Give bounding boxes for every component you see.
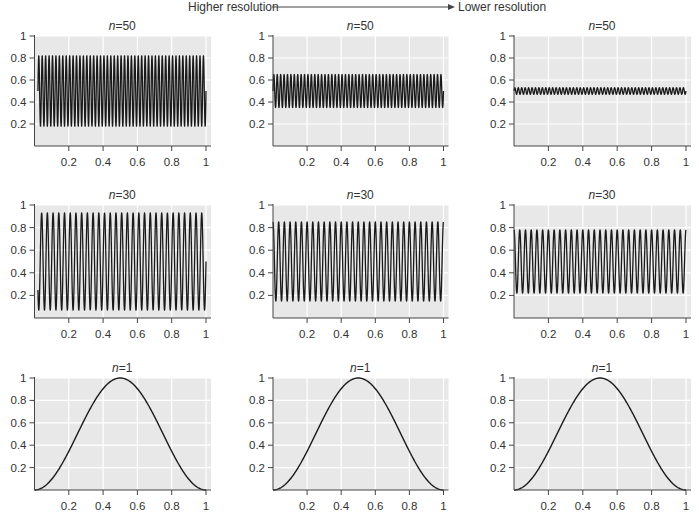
x-tick-label: 0.4 xyxy=(333,328,350,340)
x-tick-label: 0.4 xyxy=(95,500,112,512)
panel-title-value: =50 xyxy=(353,19,374,33)
x-tick-label: 1 xyxy=(683,328,689,340)
panel-title: n=30 xyxy=(588,188,615,202)
lower-resolution-label: Lower resolution xyxy=(458,0,546,14)
panel-title: n=50 xyxy=(109,19,136,33)
x-tick-label: 0.2 xyxy=(61,156,77,168)
panel-title: n=50 xyxy=(588,19,615,33)
x-tick-label: 0.2 xyxy=(540,500,556,512)
x-tick-label: 0.6 xyxy=(367,328,383,340)
x-tick-label: 1 xyxy=(683,156,689,168)
higher-resolution-label: Higher resolution xyxy=(188,0,279,14)
y-tick-label: 0.2 xyxy=(11,289,27,301)
y-tick-label: 0.6 xyxy=(249,74,265,86)
y-tick-label: 0.2 xyxy=(11,118,27,130)
x-tick-label: 0.2 xyxy=(540,156,556,168)
x-tick-label: 0.2 xyxy=(299,328,315,340)
chart-panel-1-3: 0.20.40.60.810.20.40.60.81n=50 xyxy=(490,19,691,168)
chart-panel-3-3: 0.20.40.60.810.20.40.60.81n=1 xyxy=(490,361,691,512)
y-tick-label: 0.6 xyxy=(490,417,506,429)
x-tick-label: 0.8 xyxy=(644,328,660,340)
y-tick-label: 0.8 xyxy=(490,394,506,406)
x-tick-label: 1 xyxy=(440,500,446,512)
y-tick-label: 1 xyxy=(259,30,265,42)
y-tick-label: 1 xyxy=(20,30,26,42)
y-tick-label: 0.8 xyxy=(11,394,27,406)
y-tick-label: 0.8 xyxy=(11,222,27,234)
panel-title: n=1 xyxy=(350,361,371,375)
x-tick-label: 1 xyxy=(683,500,689,512)
panel-title: n=50 xyxy=(347,19,374,33)
x-tick-label: 0.6 xyxy=(129,500,145,512)
x-tick-label: 0.8 xyxy=(644,156,660,168)
series-line xyxy=(514,88,686,95)
x-tick-label: 0.6 xyxy=(129,328,145,340)
x-tick-label: 0.2 xyxy=(61,500,77,512)
x-tick-label: 0.8 xyxy=(164,500,180,512)
chart-panel-3-2: 0.20.40.60.810.20.40.60.81n=1 xyxy=(249,361,449,512)
y-tick-label: 0.4 xyxy=(11,96,28,108)
panel-title-value: =50 xyxy=(595,19,616,33)
y-tick-label: 0.4 xyxy=(249,439,266,451)
x-tick-label: 1 xyxy=(203,328,209,340)
plot-background xyxy=(514,36,691,146)
y-tick-label: 0.8 xyxy=(249,52,265,64)
series-line xyxy=(273,75,444,108)
x-tick-label: 0.8 xyxy=(164,156,180,168)
panel-title-value: =1 xyxy=(599,361,613,375)
x-tick-label: 0.8 xyxy=(164,328,180,340)
x-tick-label: 0.4 xyxy=(333,156,350,168)
y-tick-label: 0.8 xyxy=(249,394,265,406)
panel-title-value: =30 xyxy=(595,188,616,202)
panel-title-value: =50 xyxy=(115,19,136,33)
chart-panel-1-1: 0.20.40.60.810.20.40.60.81n=50 xyxy=(11,19,212,168)
x-tick-label: 0.2 xyxy=(540,328,556,340)
y-tick-label: 0.4 xyxy=(11,439,28,451)
x-tick-label: 0.8 xyxy=(401,500,417,512)
chart-panel-1-2: 0.20.40.60.810.20.40.60.81n=50 xyxy=(249,19,449,168)
x-tick-label: 0.8 xyxy=(644,500,660,512)
panel-title: n=1 xyxy=(112,361,133,375)
y-tick-label: 1 xyxy=(259,372,265,384)
y-tick-label: 1 xyxy=(259,199,265,211)
y-tick-label: 1 xyxy=(500,372,506,384)
y-tick-label: 0.2 xyxy=(249,289,265,301)
x-tick-label: 0.6 xyxy=(129,156,145,168)
x-tick-label: 0.4 xyxy=(95,328,112,340)
x-tick-label: 1 xyxy=(203,500,209,512)
y-tick-label: 0.6 xyxy=(11,417,27,429)
chart-panel-2-3: 0.20.40.60.810.20.40.60.81n=30 xyxy=(490,188,691,340)
y-tick-label: 0.4 xyxy=(490,96,507,108)
y-tick-label: 0.6 xyxy=(490,74,506,86)
y-tick-label: 0.6 xyxy=(249,417,265,429)
x-tick-label: 0.6 xyxy=(609,156,625,168)
x-tick-label: 0.4 xyxy=(575,500,592,512)
y-tick-label: 0.8 xyxy=(11,52,27,64)
chart-panel-2-1: 0.20.40.60.810.20.40.60.81n=30 xyxy=(11,188,212,340)
x-tick-label: 0.2 xyxy=(299,500,315,512)
panel-title-value: =1 xyxy=(119,361,133,375)
resolution-header: Higher resolution Lower resolution xyxy=(188,0,546,14)
x-tick-label: 0.8 xyxy=(401,156,417,168)
y-tick-label: 0.2 xyxy=(11,462,27,474)
plot-background xyxy=(35,36,212,146)
y-tick-label: 0.8 xyxy=(490,52,506,64)
figure: Higher resolution Lower resolution 0.20.… xyxy=(0,0,699,524)
y-tick-label: 1 xyxy=(500,199,506,211)
y-tick-label: 0.4 xyxy=(249,96,266,108)
x-tick-label: 1 xyxy=(203,156,209,168)
panel-title: n=1 xyxy=(592,361,613,375)
x-tick-label: 0.4 xyxy=(333,500,350,512)
y-tick-label: 0.8 xyxy=(249,222,265,234)
panel-title: n=30 xyxy=(109,188,136,202)
y-tick-label: 0.2 xyxy=(249,462,265,474)
y-tick-label: 0.4 xyxy=(249,267,266,279)
panel-title-value: =1 xyxy=(357,361,371,375)
y-tick-label: 0.4 xyxy=(490,439,507,451)
chart-panel-3-1: 0.20.40.60.810.20.40.60.81n=1 xyxy=(11,361,212,512)
panel-grid: 0.20.40.60.810.20.40.60.81n=500.20.40.60… xyxy=(11,19,692,512)
y-tick-label: 0.8 xyxy=(490,222,506,234)
x-tick-label: 0.6 xyxy=(367,500,383,512)
y-tick-label: 0.6 xyxy=(490,244,506,256)
x-tick-label: 0.4 xyxy=(95,156,112,168)
